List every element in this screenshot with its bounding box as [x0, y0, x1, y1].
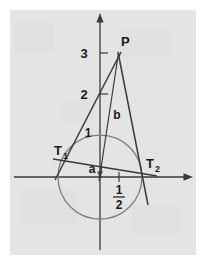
label-radius-1: 1	[85, 126, 92, 140]
y-tick-label-3: 3	[80, 46, 87, 61]
origin-marker	[99, 176, 102, 179]
geometry-figure: P 3 2 1 b a T 1 T 2 1 2	[0, 0, 208, 272]
label-segment-a: a	[89, 162, 96, 176]
y-tick-label-2: 2	[80, 87, 87, 102]
label-t1-base: T	[54, 143, 62, 158]
geometry-canvas: P 3 2 1 b a T 1 T 2 1 2	[0, 0, 208, 272]
label-t2-subscript: 2	[155, 164, 160, 174]
fraction-denominator: 2	[116, 198, 123, 212]
label-t1-subscript: 1	[63, 151, 68, 161]
label-point-p: P	[121, 34, 130, 49]
fraction-numerator: 1	[116, 183, 123, 197]
label-t2-base: T	[146, 156, 154, 171]
label-segment-b: b	[113, 108, 120, 122]
